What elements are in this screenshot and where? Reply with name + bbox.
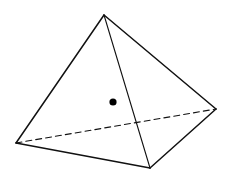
tetrahedron-diagram [0,0,231,179]
background [0,0,231,179]
interior-point [109,98,116,105]
